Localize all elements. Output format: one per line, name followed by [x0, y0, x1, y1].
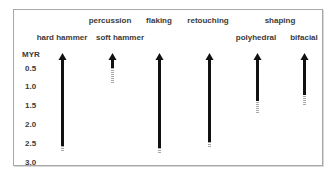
- arrows-layer: [0, 0, 334, 176]
- arrow-retouching: [206, 53, 214, 148]
- arrow-soft-hammer: [109, 53, 117, 83]
- arrow-polyhedral: [254, 53, 262, 114]
- arrow-hard-hammer: [59, 53, 67, 152]
- arrow-flaking: [156, 53, 164, 154]
- arrow-bifacial: [301, 53, 309, 106]
